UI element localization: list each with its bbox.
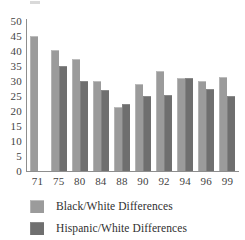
bar-black bbox=[51, 50, 59, 172]
bar-hisp bbox=[122, 104, 130, 172]
bar-group bbox=[217, 21, 238, 171]
chart-legend: Black/White DifferencesHispanic/White Di… bbox=[30, 197, 240, 240]
bar-black bbox=[93, 81, 101, 171]
y-axis-tick-label: 10 bbox=[11, 136, 22, 147]
bar-black bbox=[72, 59, 80, 172]
y-axis-tick-label: 45 bbox=[11, 31, 22, 42]
bar-black bbox=[177, 78, 185, 171]
bar-black bbox=[198, 81, 206, 171]
bar-hisp bbox=[101, 90, 109, 171]
bar-hisp bbox=[164, 95, 172, 172]
y-axis-tick-labels: 50454035302520151050 bbox=[0, 21, 24, 171]
y-axis-tick-label: 40 bbox=[11, 46, 22, 57]
bar-black bbox=[30, 36, 38, 171]
bar-group bbox=[90, 21, 111, 171]
bar-group bbox=[48, 21, 69, 171]
bar-group bbox=[27, 21, 48, 171]
bar-black bbox=[114, 107, 122, 172]
page-artifact bbox=[30, 1, 40, 4]
bar-hisp bbox=[185, 78, 193, 171]
y-axis-tick-label: 5 bbox=[16, 151, 22, 162]
legend-item: Hispanic/White Differences bbox=[30, 219, 240, 238]
bar-black bbox=[135, 84, 143, 171]
bar-group bbox=[69, 21, 90, 171]
y-axis-tick-label: 25 bbox=[11, 91, 22, 102]
bar-hisp bbox=[227, 96, 235, 171]
legend-swatch-black bbox=[30, 200, 44, 213]
x-axis-tick-label: 96 bbox=[196, 174, 217, 190]
bar-group bbox=[196, 21, 217, 171]
bar-hisp bbox=[59, 66, 67, 171]
bar-black bbox=[156, 71, 164, 172]
legend-swatch-hisp bbox=[30, 222, 44, 235]
bar-hisp bbox=[80, 81, 88, 171]
x-axis-tick-label: 88 bbox=[111, 174, 132, 190]
bar-group bbox=[154, 21, 175, 171]
x-axis-tick-label: 92 bbox=[154, 174, 175, 190]
y-axis-tick-label: 20 bbox=[11, 106, 22, 117]
y-axis-tick-label: 15 bbox=[11, 121, 22, 132]
plot-bars bbox=[27, 21, 238, 171]
bar-chart: 50454035302520151050 7175808488909294969… bbox=[0, 0, 245, 240]
legend-label: Black/White Differences bbox=[56, 200, 173, 213]
x-axis-tick-label: 90 bbox=[132, 174, 153, 190]
x-axis-tick-label: 80 bbox=[69, 174, 90, 190]
x-axis-tick-label: 84 bbox=[90, 174, 111, 190]
y-axis-tick-label: 0 bbox=[16, 166, 22, 177]
x-axis-tick-label: 71 bbox=[27, 174, 48, 190]
legend-label: Hispanic/White Differences bbox=[56, 222, 187, 235]
x-axis-line bbox=[26, 171, 239, 172]
bar-black bbox=[219, 77, 227, 172]
legend-item: Black/White Differences bbox=[30, 197, 240, 216]
x-axis-tick-label: 94 bbox=[175, 174, 196, 190]
y-axis-tick-label: 50 bbox=[11, 16, 22, 27]
x-axis-tick-label: 75 bbox=[48, 174, 69, 190]
bar-group bbox=[132, 21, 153, 171]
bar-hisp bbox=[206, 89, 214, 172]
bar-group bbox=[175, 21, 196, 171]
x-axis-tick-labels: 71758084889092949699 bbox=[27, 174, 238, 190]
y-axis-tick-label: 30 bbox=[11, 76, 22, 87]
x-axis-tick-label: 99 bbox=[217, 174, 238, 190]
bar-group bbox=[111, 21, 132, 171]
bar-hisp bbox=[143, 96, 151, 171]
y-axis-tick-label: 35 bbox=[11, 61, 22, 72]
